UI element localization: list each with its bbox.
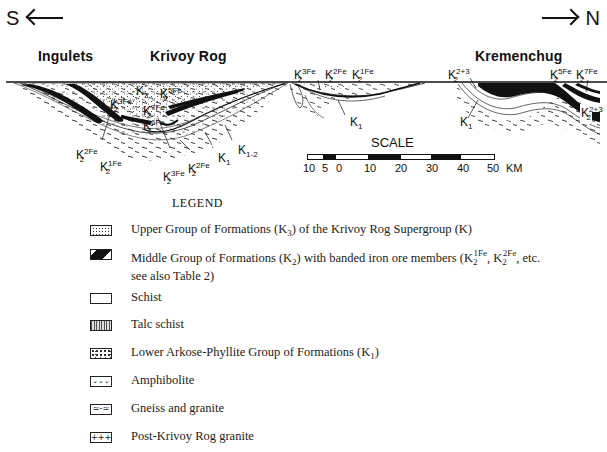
blank-pattern-icon [90, 293, 112, 304]
legend-item-post-granite: +++ Post-Krivoy Rog granite [90, 429, 254, 443]
label-k2-3fe: K3Fe2 [110, 96, 118, 116]
scale-bar [307, 154, 495, 160]
label-k2-2plus3-left: K2+32 [448, 66, 458, 86]
label-k2-1fe-mid: K1Fe2 [352, 66, 362, 86]
scale-title: SCALE [371, 135, 414, 150]
dotted-pattern-icon [90, 225, 112, 236]
crosses-pattern-icon: +++ [90, 432, 112, 443]
dense-dots-pattern-icon [90, 348, 112, 359]
legend-item-middle-group: Middle Group of Formations (K2) with ban… [90, 246, 540, 283]
label-k2-5fe: K5Fe2 [160, 85, 168, 105]
label-k2-2fe-left: K2Fe2 [76, 146, 84, 166]
label-k2-2fe-mid: K2Fe2 [325, 66, 333, 86]
vertical-lines-pattern-icon [90, 320, 112, 331]
label-k2-7fe-right: K7Fe2 [576, 66, 584, 86]
label-k2-3fe-mid: K3Fe2 [294, 66, 302, 86]
black-wedge-pattern-icon [90, 249, 112, 260]
label-k2-5fe-right: K5Fe2 [550, 66, 558, 86]
label-k1-kremenchug: K1 [460, 116, 472, 133]
legend-item-talc-schist: Talc schist [90, 317, 184, 331]
label-k1-krivoy: K1 [218, 152, 230, 169]
legend-item-schist: Schist [90, 290, 162, 304]
label-k2-3fe-bottom: K3Fe2 [163, 168, 171, 188]
label-k1-2: K1-2 [238, 144, 258, 161]
dashes-pattern-icon: ≃-≃ [90, 404, 112, 415]
label-k3: K3 [136, 85, 148, 102]
legend-item-lower-group: Lower Arkose-Phyllite Group of Formation… [90, 345, 379, 363]
label-k2-1fe-left: K1Fe2 [100, 158, 110, 178]
label-k2-6fe: K6Fe2 [143, 117, 151, 137]
label-k2-2plus3-right: K2+32 [580, 104, 592, 124]
legend-item-upper-group: Upper Group of Formations (K3) of the Kr… [90, 222, 472, 240]
legend-title: LEGEND [172, 196, 223, 211]
legend-item-gneiss: ≃-≃ Gneiss and granite [90, 401, 224, 415]
label-k1-mid: K1 [350, 116, 362, 133]
scale-ticks: 10 5 0 10 20 30 40 50 KM [303, 162, 533, 176]
label-k2-2fe-bottom: K2Fe2 [188, 160, 196, 180]
legend-item-amphibolite: ⌄⌄⌄ Amphibolite [90, 373, 194, 387]
v-marks-pattern-icon: ⌄⌄⌄ [90, 376, 112, 387]
